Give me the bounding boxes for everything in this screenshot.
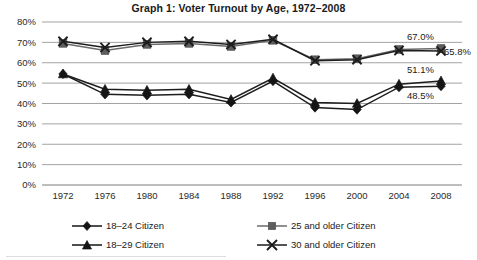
series-30-and-older-citizen bbox=[58, 35, 445, 66]
value-label-48-5: 48.5% bbox=[407, 90, 434, 101]
x-tick-label-2004: 2004 bbox=[388, 190, 409, 201]
legend-label-18-24-citizen: 18–24 Citizen bbox=[106, 220, 164, 232]
value-label-65-8: 65.8% bbox=[444, 46, 471, 57]
y-tick-label-60: 60% bbox=[17, 57, 37, 68]
legend-label-18-29-citizen: 18–29 Citizen bbox=[106, 239, 164, 251]
footer-divider bbox=[6, 256, 226, 257]
series-18-24-citizen bbox=[59, 69, 445, 114]
series-25-and-older-citizen bbox=[59, 37, 445, 64]
x-tick-label-1980: 1980 bbox=[136, 190, 157, 201]
y-axis-tick-labels: 0%10%20%30%40%50%60%70%80% bbox=[17, 16, 37, 190]
series-line bbox=[63, 74, 441, 104]
y-tick-label-0: 0% bbox=[22, 179, 36, 190]
legend-label-25-and-older-citizen: 25 and older Citizen bbox=[291, 220, 376, 232]
x-tick-label-2000: 2000 bbox=[346, 190, 367, 201]
legend-item-18-29-citizen[interactable]: 18–29 Citizen bbox=[72, 239, 257, 251]
x-tick-label-1972: 1972 bbox=[52, 190, 73, 201]
series-group bbox=[58, 35, 445, 114]
x-tick-label-2008: 2008 bbox=[430, 190, 451, 201]
y-tick-label-20: 20% bbox=[17, 139, 37, 150]
data-point-1992 bbox=[268, 73, 277, 82]
chart-card: Graph 1: Voter Turnout by Age, 1972–2008… bbox=[0, 0, 477, 260]
legend-item-18-24-citizen[interactable]: 18–24 Citizen bbox=[72, 220, 257, 232]
x-tick-label-1988: 1988 bbox=[220, 190, 241, 201]
series-18-29-citizen bbox=[58, 69, 445, 107]
value-label-67-0: 67.0% bbox=[407, 31, 434, 42]
y-tick-label-80: 80% bbox=[17, 16, 37, 27]
legend-item-30-and-older-citizen[interactable]: 30 and older Citizen bbox=[257, 239, 442, 251]
value-annotations: 67.0%65.8%51.1%48.5% bbox=[407, 31, 471, 101]
triangle-marker-icon bbox=[72, 239, 102, 251]
x-marker-icon bbox=[257, 239, 287, 251]
square-marker-icon bbox=[257, 220, 287, 232]
line-chart-plot: 0%10%20%30%40%50%60%70%80% 1972197619801… bbox=[0, 0, 477, 212]
y-tick-label-10: 10% bbox=[17, 159, 37, 170]
legend-label-30-and-older-citizen: 30 and older Citizen bbox=[291, 239, 376, 251]
diamond-marker-icon bbox=[72, 220, 102, 232]
x-axis-tick-labels: 1972197619801984198819921996200020042008 bbox=[52, 190, 451, 201]
x-tick-label-1992: 1992 bbox=[262, 190, 283, 201]
y-tick-label-70: 70% bbox=[17, 37, 37, 48]
y-tick-label-40: 40% bbox=[17, 98, 37, 109]
x-tick-label-1976: 1976 bbox=[94, 190, 115, 201]
legend-item-25-and-older-citizen[interactable]: 25 and older Citizen bbox=[257, 220, 442, 232]
x-tick-label-1984: 1984 bbox=[178, 190, 199, 201]
x-tick-label-1996: 1996 bbox=[304, 190, 325, 201]
chart-legend: 18–24 Citizen 25 and older Citizen 18–29… bbox=[72, 216, 432, 254]
y-tick-label-30: 30% bbox=[17, 118, 37, 129]
value-label-51-1: 51.1% bbox=[407, 64, 434, 75]
series-line bbox=[63, 40, 441, 59]
series-line bbox=[63, 74, 441, 110]
y-tick-label-50: 50% bbox=[17, 78, 37, 89]
